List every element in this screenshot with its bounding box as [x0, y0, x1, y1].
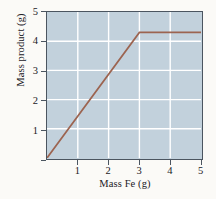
- y-tickmark-4: [41, 41, 46, 42]
- x-tick-label-5: 5: [191, 166, 211, 176]
- y-tickmark-0: [41, 160, 46, 161]
- y-tick-label-2: 2: [12, 96, 38, 106]
- chart-figure: Mass product (g) 1 2 3 4 5 1 2 3 4 5 Mas…: [0, 0, 216, 199]
- plot-area: [46, 11, 203, 160]
- y-tick-label-3: 3: [12, 66, 38, 76]
- data-line-mass-product: [47, 32, 201, 158]
- x-tick-label-4: 4: [160, 166, 180, 176]
- x-tick-label-3: 3: [129, 166, 149, 176]
- x-tick-label-1: 1: [67, 166, 87, 176]
- y-tick-label-5: 5: [12, 7, 38, 17]
- y-tickmark-5: [41, 11, 46, 12]
- y-tickmark-1: [41, 130, 46, 131]
- y-tickmark-2: [41, 100, 46, 101]
- x-axis-title: Mass Fe (g): [46, 178, 204, 189]
- y-tick-label-1: 1: [12, 126, 38, 136]
- plot-svg: [47, 12, 201, 158]
- x-tick-label-2: 2: [98, 166, 118, 176]
- vertical-gridlines: [78, 12, 170, 158]
- y-tick-label-4: 4: [12, 36, 38, 46]
- y-tickmark-3: [41, 71, 46, 72]
